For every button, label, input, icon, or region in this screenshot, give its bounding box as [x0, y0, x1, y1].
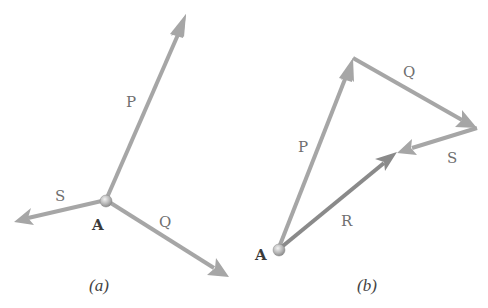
vector-p-a — [106, 14, 186, 200]
vector-s-b — [397, 128, 477, 155]
vector-q-a — [106, 200, 229, 277]
point-label-b: A — [254, 246, 267, 264]
panel-a: P Q S A (a) — [14, 14, 229, 295]
label-q-b: Q — [403, 63, 415, 81]
point-label-a: A — [91, 216, 104, 234]
label-s-b: S — [447, 149, 457, 167]
label-q-a: Q — [159, 213, 171, 231]
caption-a: (a) — [89, 276, 109, 295]
label-r-b: R — [341, 212, 353, 230]
vector-addition-figure: P Q S A (a) — [0, 0, 488, 308]
panel-b: P Q S R A (b) — [254, 58, 477, 295]
point-a-node — [100, 195, 112, 207]
label-s-a: S — [55, 187, 65, 205]
point-a-node-b — [273, 244, 285, 256]
label-p-b: P — [298, 138, 308, 156]
caption-b: (b) — [357, 276, 377, 295]
label-p-a: P — [126, 93, 136, 111]
